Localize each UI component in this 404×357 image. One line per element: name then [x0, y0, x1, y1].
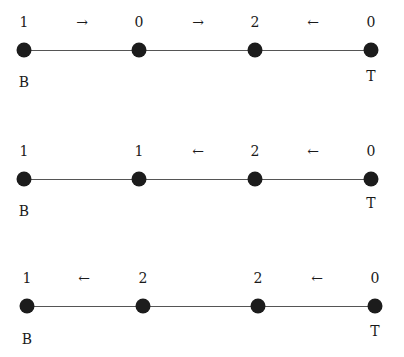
node-value-4: 0 [367, 143, 376, 159]
node-1 [17, 172, 32, 187]
node-4 [364, 172, 379, 187]
arrow-3: ← [307, 143, 319, 159]
arrow-2: → [192, 14, 204, 30]
node-2 [136, 299, 151, 314]
node-1 [20, 299, 35, 314]
bottom-label: B [19, 203, 29, 219]
node-value-1: 1 [20, 143, 29, 159]
node-2 [132, 43, 147, 58]
path-edge [24, 179, 371, 180]
arrow-3: ← [311, 270, 323, 286]
node-value-2: 2 [139, 270, 148, 286]
node-2 [132, 172, 147, 187]
path-diagram-2: 1 1 2 0 ← ← B T [0, 129, 404, 239]
node-value-2: 0 [135, 14, 144, 30]
node-4 [368, 299, 383, 314]
bottom-label: B [22, 331, 32, 347]
node-value-4: 0 [371, 270, 380, 286]
node-value-4: 0 [367, 14, 376, 30]
node-value-1: 1 [23, 270, 32, 286]
path-edge [24, 50, 371, 51]
top-label: T [366, 68, 375, 84]
arrow-1: → [76, 14, 88, 30]
arrow-3: ← [307, 14, 319, 30]
arrow-1: ← [78, 270, 90, 286]
node-3 [251, 299, 266, 314]
node-value-3: 2 [251, 143, 260, 159]
node-3 [248, 172, 263, 187]
node-1 [17, 43, 32, 58]
top-label: T [366, 195, 375, 211]
path-diagram-3: 1 2 2 0 ← ← B T [0, 256, 404, 357]
node-3 [248, 43, 263, 58]
path-edge [27, 306, 375, 307]
node-value-3: 2 [251, 14, 260, 30]
path-diagram-1: 1 0 2 0 → → ← B T [0, 0, 404, 110]
top-label: T [370, 323, 379, 339]
node-value-2: 1 [135, 143, 144, 159]
node-4 [364, 43, 379, 58]
arrow-2: ← [192, 143, 204, 159]
node-value-1: 1 [20, 14, 29, 30]
bottom-label: B [19, 74, 29, 90]
node-value-3: 2 [254, 270, 263, 286]
